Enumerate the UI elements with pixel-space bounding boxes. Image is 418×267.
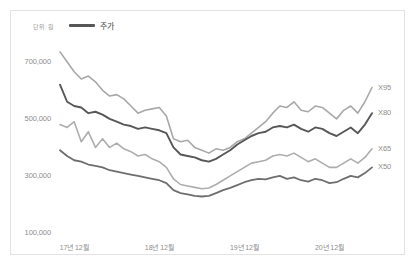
series-end-label-x80: X80 bbox=[378, 108, 391, 117]
y-axis-tick-label: 500,000 bbox=[25, 114, 51, 123]
series-line-x80 bbox=[60, 85, 372, 162]
series-line-x95 bbox=[60, 52, 372, 153]
x-axis-tick-label: 19년 12월 bbox=[214, 242, 274, 252]
series-end-label-x95: X95 bbox=[378, 83, 391, 92]
plot-area bbox=[11, 11, 404, 254]
series-end-label-x50: X50 bbox=[378, 162, 391, 171]
y-axis-tick-label: 700,000 bbox=[25, 57, 51, 66]
x-axis-tick-label: 18년 12월 bbox=[129, 242, 189, 252]
x-axis-tick-label: 20년 12월 bbox=[299, 242, 359, 252]
line-chart bbox=[11, 11, 406, 256]
series-line-x50 bbox=[60, 150, 372, 196]
y-axis-tick-label: 300,000 bbox=[25, 171, 51, 180]
y-axis-tick-label: 100,000 bbox=[25, 228, 51, 237]
x-axis-tick-label: 17년 12월 bbox=[44, 242, 104, 252]
series-line-x65 bbox=[60, 122, 372, 189]
chart-card: 단위: 원 주가 700,000500,000300,000100,00017년… bbox=[10, 10, 405, 255]
series-end-label-x65: X65 bbox=[378, 144, 391, 153]
